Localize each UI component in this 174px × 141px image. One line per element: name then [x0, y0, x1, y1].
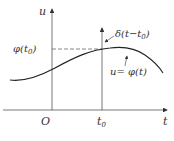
curve-label: u= φ(t) [110, 67, 147, 77]
t-axis-label: t [163, 116, 167, 127]
delta-label: δ(t−t0) [115, 29, 150, 41]
t0-subscript: 0 [101, 121, 105, 129]
phi-t0-close: ) [32, 43, 36, 54]
delta-text: δ(t−t [115, 28, 141, 39]
u-axis-label: u [39, 6, 46, 17]
delta-close: ) [146, 28, 150, 39]
diagram-canvas [0, 0, 174, 141]
phi-t0-label: φ(t0) [13, 44, 36, 56]
origin-label: O [41, 116, 50, 127]
phi-t0-text: φ(t [13, 43, 28, 54]
curve-label-leader [125, 56, 127, 66]
t0-label: t0 [97, 116, 106, 129]
delta-label-leader [105, 36, 114, 42]
